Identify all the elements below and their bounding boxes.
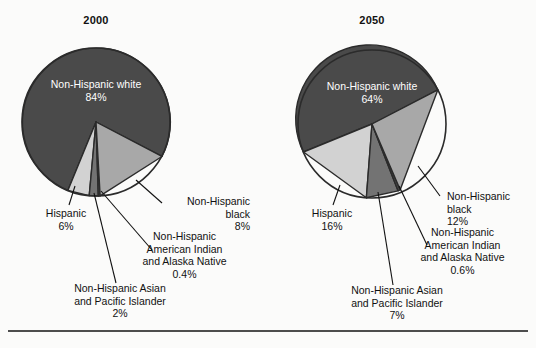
pie-2000-callout-black: Non-Hispanic black 8% — [150, 195, 250, 233]
pie-2050-callout-hispanic: Hispanic 16% — [292, 207, 372, 232]
pie-2000-callout-asian-pacific: Non-Hispanic Asian and Pacific Islander … — [55, 282, 185, 320]
pie-2050-callout-american-indian: Non-Hispanic American Indian and Alaska … — [400, 226, 525, 276]
pie-2050 — [296, 45, 446, 198]
pie-2050-callout-asian-pacific: Non-Hispanic Asian and Pacific Islander … — [332, 284, 462, 322]
pie-2000-callout-hispanic: Hispanic 6% — [26, 207, 106, 232]
bottom-divider — [8, 330, 528, 332]
pie-2050-inner-label-non-hispanic-white: Non-Hispanic white 64% — [302, 80, 442, 105]
pie-2000-inner-label-non-hispanic-white: Non-Hispanic white 84% — [26, 78, 166, 103]
pie-2000-callout-american-indian: Non-Hispanic American Indian and Alaska … — [122, 230, 247, 280]
pie-2050-callout-black: Non-Hispanic black 12% — [447, 190, 536, 228]
leader-2050-asian-pacific — [378, 192, 393, 285]
figure-root: 2000 2050 — [0, 0, 536, 348]
pie-2000 — [22, 48, 170, 196]
